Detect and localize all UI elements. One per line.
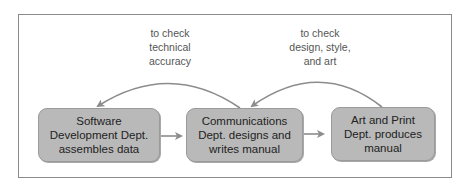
label-design-style-art: to check design, style, and art bbox=[270, 26, 370, 68]
feedback-arrow-technical bbox=[98, 83, 240, 108]
node-software-development: Software Development Dept. assembles dat… bbox=[38, 108, 160, 162]
label-technical-accuracy: to check technical accuracy bbox=[130, 26, 210, 68]
feedback-arrow-design bbox=[252, 82, 382, 107]
node-art-and-print: Art and Print Dept. produces manual bbox=[331, 107, 435, 161]
node-communications: Communications Dept. designs and writes … bbox=[186, 108, 303, 162]
